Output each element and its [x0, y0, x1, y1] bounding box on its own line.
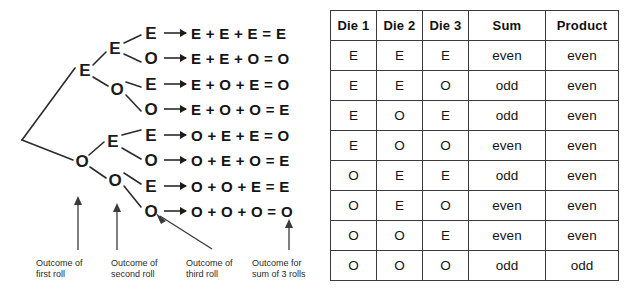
- up-arrow-icon: [285, 219, 293, 250]
- caption-line: first roll: [36, 269, 83, 280]
- tree-node-level2-eo: O: [110, 81, 123, 98]
- cell-die1: O: [331, 221, 377, 251]
- cell-die2: O: [377, 131, 423, 161]
- table-row: E E E even even: [331, 41, 619, 71]
- tree-node-level1-even: E: [79, 62, 90, 79]
- table-header-die3: Die 3: [423, 11, 469, 41]
- branch-oo-to-ooe: [124, 173, 141, 184]
- tree-node-level3-2: O: [144, 50, 157, 67]
- table-header-die2: Die 2: [377, 11, 423, 41]
- cell-die2: E: [377, 71, 423, 101]
- cell-die1: O: [331, 161, 377, 191]
- caption-sum-of-3-rolls: Outcome for sum of 3 rolls: [252, 258, 306, 281]
- cell-die3: E: [423, 41, 469, 71]
- cell-product: odd: [546, 251, 619, 281]
- table-row: O E O even even: [331, 191, 619, 221]
- caption-third-roll: Outcome of third roll: [186, 258, 233, 281]
- cell-die3: O: [423, 131, 469, 161]
- table-header-row: Die 1 Die 2 Die 3 Sum Product: [331, 11, 619, 41]
- caption-second-roll: Outcome of second roll: [111, 258, 158, 281]
- cell-die3: O: [423, 191, 469, 221]
- cell-die3: O: [423, 251, 469, 281]
- caption-line: sum of 3 rolls: [252, 269, 306, 280]
- branch-e-to-eo: [93, 77, 108, 86]
- probability-tree-diagram: E O E O E O E O E O E O E O E + E + E = …: [0, 0, 325, 294]
- cell-sum: odd: [469, 251, 546, 281]
- tree-node-level3-6: O: [144, 152, 157, 169]
- branch-root-to-odd: [22, 140, 73, 160]
- cell-sum: even: [469, 131, 546, 161]
- cell-die2: E: [377, 161, 423, 191]
- cell-sum: odd: [469, 161, 546, 191]
- cell-sum: odd: [469, 71, 546, 101]
- right-arrow-icon: [164, 131, 187, 139]
- cell-die3: O: [423, 71, 469, 101]
- cell-product: even: [546, 221, 619, 251]
- tree-node-level2-oo: O: [108, 172, 121, 189]
- caption-line: third roll: [186, 269, 233, 280]
- table-row: E O O even even: [331, 131, 619, 161]
- branch-e-to-ee: [93, 52, 106, 65]
- cell-die1: E: [331, 101, 377, 131]
- right-arrow-icon: [164, 105, 187, 113]
- cell-die1: E: [331, 71, 377, 101]
- cell-product: even: [546, 191, 619, 221]
- cell-product: even: [546, 131, 619, 161]
- right-arrow-icon: [164, 29, 187, 37]
- table-row: O E E odd even: [331, 161, 619, 191]
- tree-node-level2-oe: E: [107, 133, 118, 150]
- tree-node-level1-odd: O: [75, 153, 88, 170]
- up-arrow-icon: [113, 203, 121, 250]
- cell-die2: O: [377, 251, 423, 281]
- table-header-die1: Die 1: [331, 11, 377, 41]
- equation-row: O + E + E = O: [191, 127, 290, 144]
- branch-oo-to-ooo: [124, 186, 141, 207]
- equation-row: E + O + O = E: [191, 101, 290, 118]
- equation-row: O + O + E = E: [191, 178, 290, 195]
- cell-die1: O: [331, 191, 377, 221]
- equation-row: E + E + E = E: [191, 25, 286, 42]
- equation-row: E + O + E = O: [191, 76, 290, 93]
- table-row: O O O odd odd: [331, 251, 619, 281]
- right-arrow-icon: [164, 156, 187, 164]
- branch-oe-to-oee: [122, 130, 141, 135]
- branch-ee-to-eeo: [124, 54, 141, 62]
- cell-die3: E: [423, 221, 469, 251]
- outcome-table-container: Die 1 Die 2 Die 3 Sum Product E E E even…: [330, 10, 618, 281]
- cell-die3: E: [423, 101, 469, 131]
- up-arrow-icon: [74, 196, 82, 250]
- outcome-table: Die 1 Die 2 Die 3 Sum Product E E E even…: [330, 10, 619, 281]
- branch-o-to-oe: [89, 142, 104, 155]
- table-header-product: Product: [546, 11, 619, 41]
- branch-root-to-even: [22, 68, 75, 140]
- right-arrow-icon: [164, 54, 187, 62]
- cell-product: even: [546, 101, 619, 131]
- right-arrow-icon: [164, 207, 187, 215]
- equation-row: O + O + O = O: [191, 203, 293, 220]
- tree-node-level3-3: E: [145, 76, 156, 93]
- cell-die2: O: [377, 221, 423, 251]
- table-row: O O E even even: [331, 221, 619, 251]
- cell-sum: even: [469, 191, 546, 221]
- tree-node-level3-5: E: [145, 127, 156, 144]
- cell-product: even: [546, 71, 619, 101]
- tree-node-level3-7: E: [145, 178, 156, 195]
- cell-die1: E: [331, 131, 377, 161]
- branch-ee-to-eee: [124, 35, 141, 43]
- table-header-sum: Sum: [469, 11, 546, 41]
- cell-sum: odd: [469, 101, 546, 131]
- tree-node-level3-8: O: [144, 203, 157, 220]
- cell-sum: even: [469, 41, 546, 71]
- cell-die1: E: [331, 41, 377, 71]
- cell-die2: E: [377, 191, 423, 221]
- caption-line: Outcome of: [36, 258, 83, 269]
- cell-sum: even: [469, 221, 546, 251]
- cell-product: even: [546, 161, 619, 191]
- cell-die1: O: [331, 251, 377, 281]
- right-arrow-icon: [164, 80, 187, 88]
- cell-die2: O: [377, 101, 423, 131]
- caption-line: Outcome for: [252, 258, 306, 269]
- table-row: E E O odd even: [331, 71, 619, 101]
- equation-row: E + E + O = O: [191, 50, 290, 67]
- cell-product: even: [546, 41, 619, 71]
